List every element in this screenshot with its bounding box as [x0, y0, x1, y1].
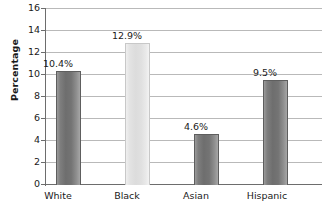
y-tick-label-14: 14: [14, 25, 40, 35]
category-label-white: White: [34, 190, 82, 202]
bar-hispanic[interactable]: [263, 80, 288, 185]
bar-asian[interactable]: [194, 134, 219, 185]
bar-value-white: 10.4%: [34, 58, 82, 69]
bar-black[interactable]: [125, 43, 150, 185]
bar-value-black: 12.9%: [103, 30, 151, 41]
gridline-14: [46, 30, 322, 31]
category-label-black: Black: [103, 190, 151, 202]
gridline-12: [46, 52, 322, 53]
y-tick-label-0: 0: [14, 179, 40, 189]
bar-chart: Percentage 16 14 12 10 8 6 4 2 0: [0, 0, 326, 213]
y-tick-label-2: 2: [14, 157, 40, 167]
category-label-asian: Asian: [172, 190, 220, 202]
bar-value-asian: 4.6%: [172, 121, 220, 132]
bar-value-hispanic: 9.5%: [241, 67, 289, 78]
y-tick-label-16: 16: [14, 3, 40, 13]
y-tick-label-6: 6: [14, 113, 40, 123]
y-tick-label-8: 8: [14, 91, 40, 101]
plot-area: [46, 8, 322, 185]
bar-white[interactable]: [56, 71, 81, 185]
y-tick-label-12: 12: [14, 47, 40, 57]
y-tick-label-4: 4: [14, 135, 40, 145]
gridline-16: [46, 8, 322, 9]
category-label-hispanic: Hispanic: [237, 190, 297, 202]
y-axis-ticks: 16 14 12 10 8 6 4 2 0: [10, 0, 40, 213]
y-tick-label-10: 10: [14, 69, 40, 79]
